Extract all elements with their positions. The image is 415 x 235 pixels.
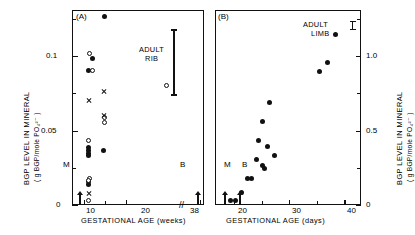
panel-b-ytick <box>357 19 361 20</box>
panel-b-xtick-minor <box>317 201 318 205</box>
panel-a-datapoint-open-circle <box>86 198 91 203</box>
panel-a-xtick-major <box>126 200 127 206</box>
panel-a-xtick-20: 20 <box>141 206 150 215</box>
panel-a-ytick <box>72 205 78 206</box>
panel-a-ytick <box>72 93 76 94</box>
panel-b-datapoint-filled-circle <box>233 198 238 203</box>
panel-b-axis-arrow-b <box>239 194 241 205</box>
panel-b-ytick-0: 0 <box>366 200 370 209</box>
panel-b-datapoint-filled-circle <box>267 100 272 105</box>
panel-b-ytick-10: 1.0 <box>366 51 377 60</box>
panel-a-xtick-10: 10 <box>86 206 95 215</box>
panel-a-plot-frame <box>72 10 204 205</box>
panel-b-xtick-major <box>344 200 345 206</box>
panel-b-xtick-20: 20 <box>238 206 247 215</box>
panel-b-marker-label-m: M <box>224 160 231 169</box>
panel-a-xtick-major <box>200 200 201 206</box>
panel-b-ytick <box>357 168 361 169</box>
panel-b-xtick-30: 30 <box>292 206 301 215</box>
panel-b-ytick <box>356 56 362 57</box>
panel-a-marker-label-b: B <box>180 160 185 169</box>
panel-a-datapoint-cross <box>86 191 92 197</box>
panel-b-xtick-40: 40 <box>347 206 356 215</box>
panel-b-y-axis-units: ( g BGP/mole PO₄²⁻ ) <box>406 112 414 182</box>
panel-b-plot-frame <box>215 10 361 205</box>
panel-a-datapoint-open-circle <box>86 138 91 143</box>
panel-a-datapoint-cross <box>101 113 107 119</box>
panel-a-xtick-38: 38 <box>190 206 199 215</box>
panel-b-xtick-minor <box>262 201 263 205</box>
panel-a-marker-label-m: M <box>63 160 70 169</box>
panel-b-marker-label-b: B <box>242 160 247 169</box>
panel-b-ytick <box>356 205 362 206</box>
panel-a-ytick-01: 0.1 <box>46 51 57 60</box>
panel-b-ytick <box>356 131 362 132</box>
panel-a-annotation-line2: RIB <box>145 55 158 63</box>
panel-a-xtick-minor <box>105 201 106 205</box>
panel-a-x-axis-label: GESTATIONAL AGE (weeks) <box>81 216 186 225</box>
panel-a-ytick <box>72 131 78 132</box>
panel-b-datapoint-filled-circle <box>265 144 270 149</box>
panel-b-datapoint-filled-circle <box>254 157 259 162</box>
panel-a-adult-range-bar <box>173 29 174 95</box>
panel-a-ytick <box>72 168 76 169</box>
panel-b-ytick-05: 0.5 <box>366 126 377 135</box>
panel-b-y-axis-label: BGP LEVEL IN MINERAL <box>395 91 404 185</box>
panel-a-datapoint-open-circle <box>86 178 91 183</box>
panel-b-ytick <box>357 93 361 94</box>
panel-a-datapoint-cross <box>86 98 92 104</box>
panel-a-datapoint-filled-circle <box>90 56 95 61</box>
panel-a-axis-break: // <box>179 200 184 210</box>
panel-a-ytick <box>72 19 76 20</box>
panel-a-datapoint-open-circle <box>90 68 95 73</box>
panel-a-datapoint-cross <box>101 89 107 95</box>
panel-b-datapoint-filled-circle <box>262 166 267 171</box>
panel-b-id: (B) <box>218 12 229 21</box>
panel-a-datapoint-filled-circle <box>102 14 107 19</box>
panel-a-ytick-0: 0 <box>56 200 60 209</box>
panel-b-annotation-line2: LIMB <box>311 30 329 38</box>
panel-a-ytick-005: 0.05 <box>41 126 57 135</box>
panel-b-adult-range-bar <box>352 21 353 30</box>
panel-b-datapoint-filled-circle <box>317 69 322 74</box>
panel-b-axis-arrow-m <box>224 194 226 205</box>
panel-a-y-axis-units: ( g BGP/mole PO₄²⁻ ) <box>33 112 41 182</box>
panel-a-ytick <box>72 56 78 57</box>
panel-b-x-axis-label: GESTATIONAL AGE (days) <box>226 216 325 225</box>
panel-a-y-axis-label: BGP LEVEL IN MINERAL <box>22 91 31 185</box>
panel-b-xtick-major <box>289 200 290 206</box>
panel-a-axis-arrow-b <box>197 194 199 205</box>
panel-a-datapoint-open-circle <box>102 120 107 125</box>
panel-a-axis-arrow-m <box>79 194 81 205</box>
panel-a-id: (A) <box>76 12 87 21</box>
figure-root: (A) BGP LEVEL IN MINERAL ( g BGP/mole PO… <box>0 0 415 235</box>
